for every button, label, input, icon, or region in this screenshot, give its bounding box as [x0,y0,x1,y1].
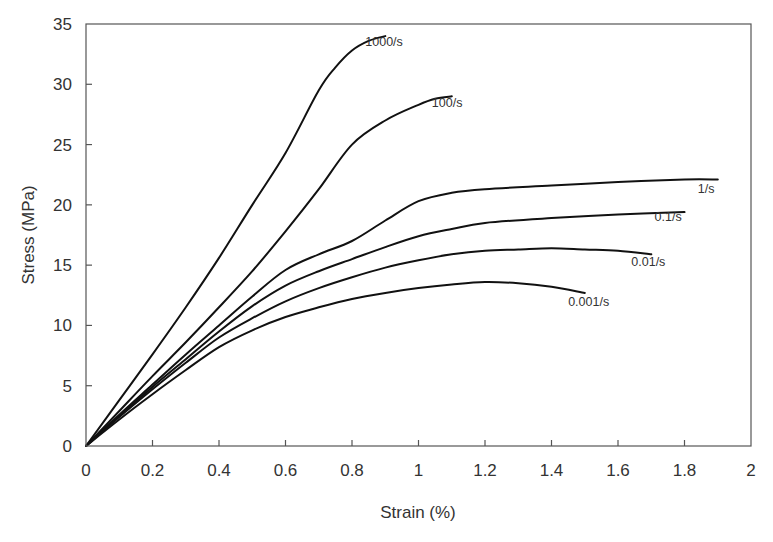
x-tick-label: 0 [81,461,90,480]
x-tick-label: 0.6 [274,461,298,480]
x-axis-title: Strain (%) [380,503,456,522]
curve-1-s [86,179,718,446]
x-tick-label: 1.8 [673,461,697,480]
curve-0-1-s [86,212,685,446]
y-tick-label: 30 [53,75,72,94]
y-tick-label: 25 [53,136,72,155]
x-tick-label: 2 [746,461,755,480]
curve-0-001-s [86,282,585,446]
x-tick-label: 0.4 [207,461,231,480]
y-tick-label: 5 [63,377,72,396]
curve-0-01-s [86,248,651,446]
x-tick-label: 1 [414,461,423,480]
y-axis-title: Stress (MPa) [19,185,38,284]
y-tick-label: 15 [53,256,72,275]
x-tick-label: 0.8 [340,461,364,480]
curve-1000-s [86,36,385,446]
x-tick-label: 1.6 [606,461,630,480]
series-label: 0.1/s [655,210,682,224]
series-label: 1/s [698,182,715,196]
y-tick-label: 0 [63,437,72,456]
y-tick-label: 20 [53,196,72,215]
x-tick-label: 0.2 [141,461,165,480]
series-label: 0.001/s [568,295,609,309]
x-tick-label: 1.2 [473,461,497,480]
plot-area [86,36,718,446]
series-label: 1000/s [365,35,403,49]
y-tick-label: 10 [53,316,72,335]
series-label: 100/s [432,96,463,110]
plot-frame [86,24,751,446]
stress-strain-chart: 00.20.40.60.811.21.41.61.82 051015202530… [0,0,773,542]
x-tick-label: 1.4 [540,461,564,480]
curve-100-s [86,96,452,446]
series-labels: 1000/s100/s1/s0.1/s0.01/s0.001/s [365,35,714,309]
y-tick-label: 35 [53,15,72,34]
series-label: 0.01/s [631,255,665,269]
